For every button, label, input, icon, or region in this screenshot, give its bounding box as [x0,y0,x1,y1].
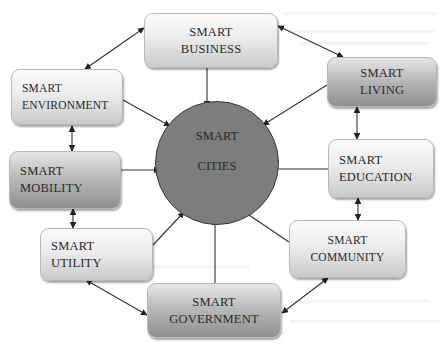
hub-label-line2: CITIES [156,159,278,174]
node-label-line2: UTILITY [51,255,152,272]
node-smart-government: SMART GOVERNMENT [147,283,281,338]
edge-government-community [282,278,328,313]
diagram-canvas: SMART CITIES SMART BUSINESS SMART ENVIRO… [0,0,447,351]
node-label-line2: LIVING [360,82,404,99]
edge-business-living [278,26,343,57]
node-label-line1: SMART [51,238,152,255]
node-smart-living: SMART LIVING [327,57,437,107]
node-smart-community: SMART COMMUNITY [289,220,406,278]
node-smart-business: SMART BUSINESS [144,13,278,68]
hub-smart-cities: SMART CITIES [155,101,279,225]
node-label-line1: SMART [192,294,235,311]
node-label-line2: ENVIRONMENT [22,97,122,114]
node-smart-mobility: SMART MOBILITY [9,151,121,209]
node-label-line2: MOBILITY [20,180,120,197]
node-label-line2: BUSINESS [181,41,242,58]
node-smart-education: SMART EDUCATION [328,139,434,198]
edge-business-environment [85,28,144,69]
node-smart-environment: SMART ENVIRONMENT [11,69,123,125]
node-label-line2: COMMUNITY [311,249,385,266]
node-label-line1: SMART [22,80,122,97]
node-label-line1: SMART [189,24,232,41]
node-label-line1: SMART [339,152,433,169]
node-label-line2: EDUCATION [339,169,433,186]
edge-utility-hub [153,212,184,245]
edge-living-hub [263,85,327,125]
node-label-line1: SMART [20,163,120,180]
node-label-line2: GOVERNMENT [169,311,259,328]
node-label-line1: SMART [360,65,403,82]
edge-community-hub [243,211,289,242]
node-smart-utility: SMART UTILITY [40,228,153,281]
node-label-line1: SMART [328,232,368,249]
edge-environment-hub [123,100,170,126]
edge-utility-government [86,280,147,315]
hub-label-line1: SMART [156,129,278,144]
